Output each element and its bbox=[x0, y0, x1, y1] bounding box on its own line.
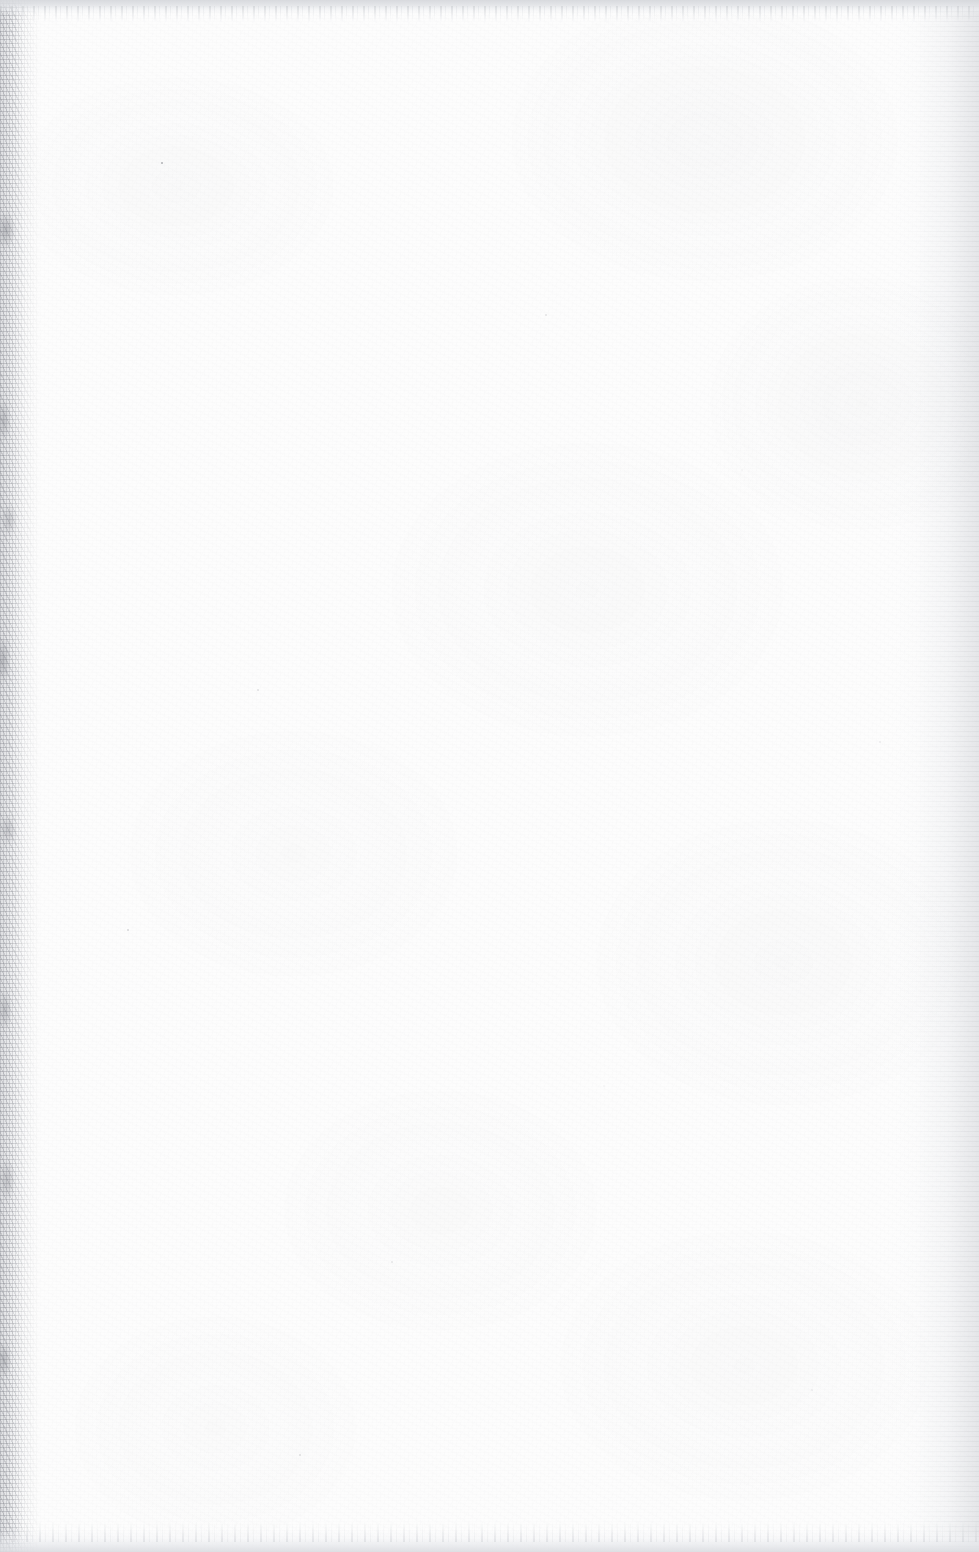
scanned-page bbox=[0, 0, 979, 1552]
page-body-text bbox=[0, 0, 979, 1552]
page-content-area bbox=[0, 0, 979, 1552]
